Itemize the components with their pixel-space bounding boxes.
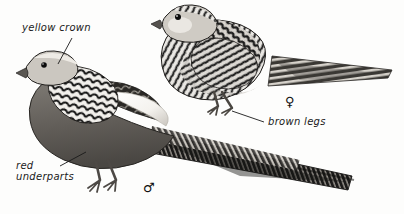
female-pheasant [151,5,392,115]
annotation-yellow-crown: yellow crown [22,22,91,33]
leader-brown-legs [232,111,264,122]
annotation-red-underparts: red underparts [16,160,74,182]
annotation-brown-legs: brown legs [268,116,326,127]
illustration-plate: yellow crown red underparts brown legs ♂… [0,0,404,214]
male-symbol: ♂ [143,180,155,195]
female-symbol: ♀ [285,94,295,109]
